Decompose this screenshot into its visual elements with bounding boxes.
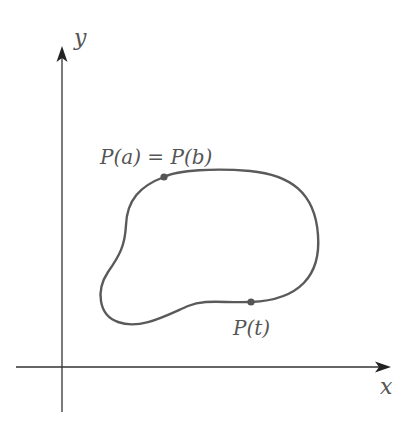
y-axis-label: y (74, 27, 86, 49)
diagram-canvas (0, 0, 410, 431)
figure: y x P(a) = P(b) P(t) (0, 0, 410, 431)
closed-curve (101, 170, 319, 325)
x-axis-label: x (380, 376, 392, 398)
point-p-a (160, 173, 167, 180)
moving-point-label: P(t) (233, 318, 270, 338)
start-end-point-label: P(a) = P(b) (100, 147, 212, 167)
point-p-t (247, 298, 254, 305)
